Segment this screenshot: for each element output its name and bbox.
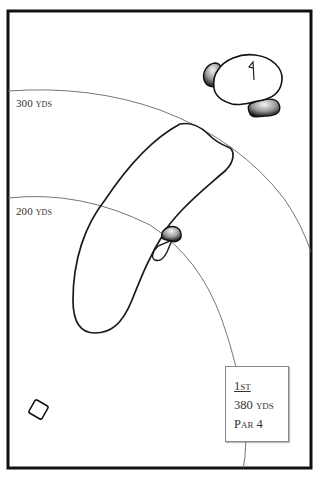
distance-label-200: 200 yds	[16, 204, 52, 219]
distance-label-300-text: 300 yds	[16, 97, 52, 109]
distance-label-200-text: 200 yds	[16, 205, 52, 217]
fairway	[73, 123, 233, 333]
green-complex	[204, 55, 283, 117]
hole-number: 1st	[234, 377, 288, 396]
hole-info-box: 1st 380 yds Par 4	[225, 366, 289, 442]
hole-par: Par 4	[234, 415, 288, 434]
hole-yardage: 380 yds	[234, 396, 288, 415]
distance-arc-200	[8, 197, 246, 470]
distance-label-300: 300 yds	[16, 96, 52, 111]
tee-box	[28, 399, 48, 419]
green	[214, 55, 282, 105]
